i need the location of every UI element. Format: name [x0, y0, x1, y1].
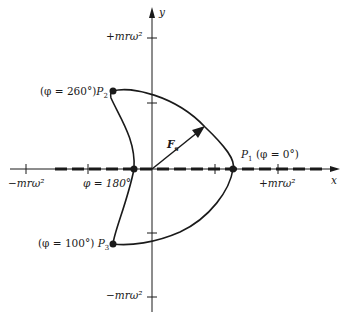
point-180-dot: [131, 166, 138, 173]
point-p1-dot: [230, 166, 237, 173]
point-p2-label: (φ = 260°)P2: [40, 86, 108, 100]
point-p1-label: P1 (φ = 0°): [241, 149, 299, 163]
y-axis-arrow-icon: [149, 7, 155, 18]
x-neg-tick-label: −mrω²: [8, 178, 45, 189]
point-180-label: φ = 180°: [83, 178, 131, 189]
x-pos-tick-label: +mrω²: [259, 178, 296, 189]
point-p3-label: (φ = 100°) P3: [38, 238, 109, 252]
force-vector-label: Fs: [167, 139, 178, 152]
y-neg-tick-label: −mrω²: [106, 290, 143, 301]
x-axis-arrow-icon: [330, 166, 340, 172]
y-axis-label: y: [159, 7, 165, 18]
x-axis-label: x: [331, 175, 337, 186]
point-p2-dot: [110, 88, 117, 95]
point-p3-dot: [110, 241, 117, 248]
y-pos-tick-label: +mrω²: [106, 31, 143, 42]
